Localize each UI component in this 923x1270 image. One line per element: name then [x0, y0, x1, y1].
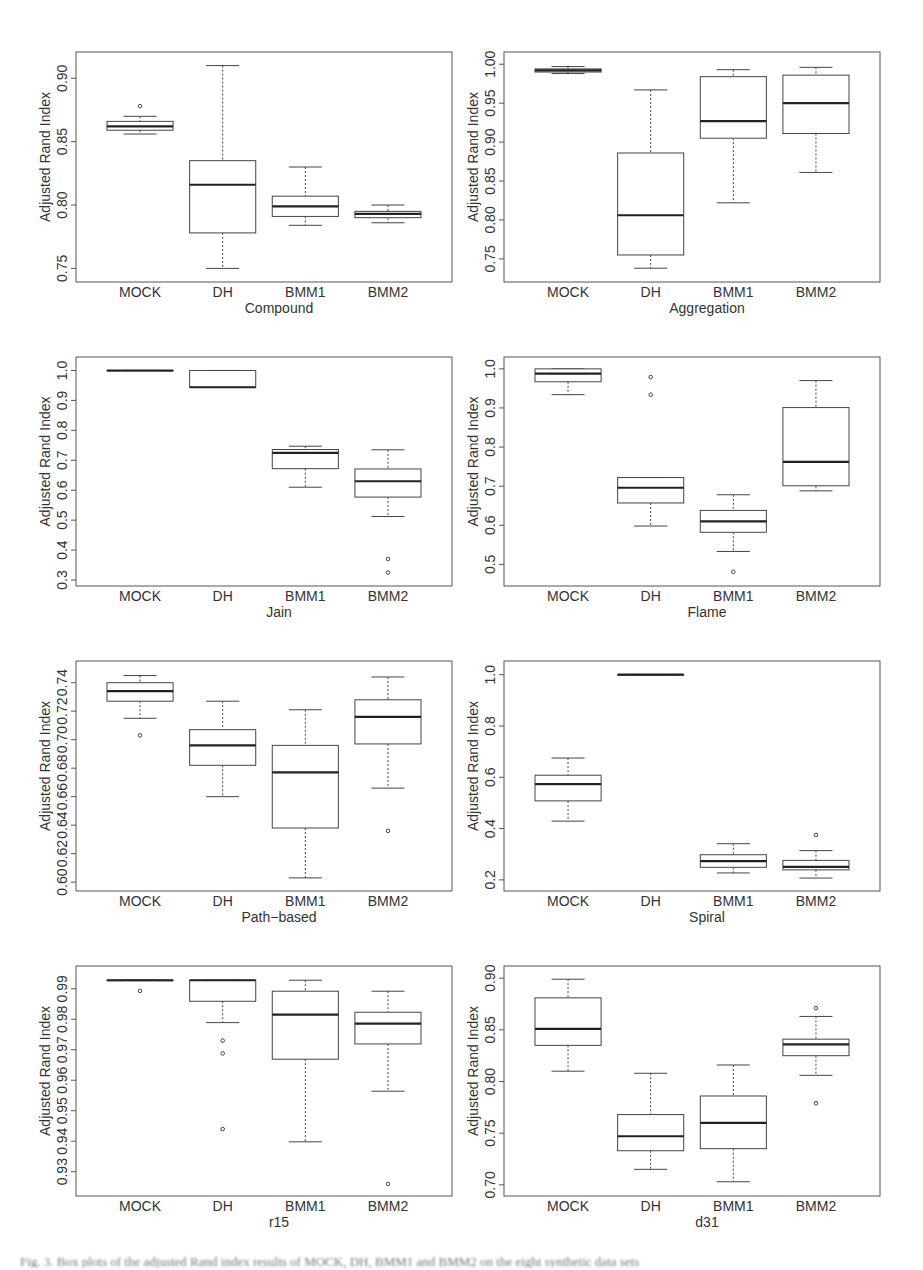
boxplot-panel-aggregation: 0.750.800.850.900.951.00Adjusted Rand In…: [465, 50, 880, 316]
box-bmm1: [700, 844, 766, 873]
boxplot-panel-jain: 0.30.40.50.60.70.80.91.0Adjusted Rand In…: [37, 357, 452, 620]
box-mock: [535, 758, 601, 821]
x-category-label: BMM1: [285, 588, 326, 604]
outlier-point: [649, 393, 653, 397]
iqr-box: [618, 1115, 684, 1151]
x-axis-title: Spiral: [689, 909, 725, 925]
box-bmm1: [700, 70, 766, 203]
boxplot-panel-r15: 0.930.940.950.960.970.980.99Adjusted Ran…: [37, 966, 452, 1230]
y-tick-label: 0.75: [482, 245, 498, 272]
iqr-box: [190, 730, 256, 766]
outlier-point: [386, 1182, 390, 1186]
box-dh: [190, 980, 256, 1131]
x-category-label: BMM2: [796, 284, 837, 300]
y-tick-label: 0.9: [54, 390, 70, 410]
x-category-label: DH: [641, 893, 661, 909]
box-bmm2: [783, 1006, 849, 1105]
boxplot-panel-flame: 0.50.60.70.80.91.0Adjusted Rand IndexMOC…: [465, 357, 880, 620]
y-tick-label: 0.64: [54, 811, 70, 838]
y-tick-label: 1.0: [482, 665, 498, 685]
iqr-box: [535, 775, 601, 801]
y-tick-label: 1.0: [54, 361, 70, 381]
y-tick-label: 0.62: [54, 840, 70, 867]
y-axis-title: Adjusted Rand Index: [37, 701, 53, 831]
y-axis-title: Adjusted Rand Index: [37, 92, 53, 222]
y-tick-label: 0.70: [482, 1171, 498, 1198]
y-tick-label: 0.99: [54, 975, 70, 1002]
outlier-point: [814, 1006, 818, 1010]
figure-caption: Fig. 3. Box plots of the adjusted Rand i…: [20, 1254, 910, 1268]
x-category-label: BMM1: [713, 893, 754, 909]
box-dh: [618, 675, 684, 676]
iqr-box: [783, 408, 849, 486]
x-category-label: DH: [213, 588, 233, 604]
box-bmm2: [355, 205, 421, 223]
x-category-label: DH: [213, 284, 233, 300]
outlier-point: [138, 989, 142, 993]
x-category-label: BMM2: [368, 1198, 409, 1214]
y-tick-label: 0.7: [482, 476, 498, 496]
y-tick-label: 0.80: [54, 191, 70, 218]
iqr-box: [783, 1039, 849, 1056]
box-bmm2: [355, 991, 421, 1185]
y-tick-label: 0.70: [54, 726, 70, 753]
boxplot-panel-d31: 0.700.750.800.850.90Adjusted Rand IndexM…: [465, 964, 880, 1230]
y-tick-label: 0.4: [54, 540, 70, 560]
y-tick-label: 0.9: [482, 398, 498, 418]
x-category-label: BMM2: [796, 893, 837, 909]
x-axis-title: d31: [695, 1214, 719, 1230]
outlier-point: [386, 571, 390, 575]
iqr-box: [272, 745, 338, 828]
outlier-point: [814, 833, 818, 837]
iqr-box: [355, 1012, 421, 1044]
x-category-label: BMM1: [713, 1198, 754, 1214]
y-axis-title: Adjusted Rand Index: [465, 1006, 481, 1136]
box-bmm1: [272, 167, 338, 225]
box-dh: [190, 370, 256, 387]
box-mock: [107, 104, 173, 134]
y-tick-label: 0.90: [482, 128, 498, 155]
y-tick-label: 0.4: [482, 819, 498, 839]
box-mock: [107, 980, 173, 992]
y-tick-label: 0.96: [54, 1066, 70, 1093]
y-tick-label: 0.80: [482, 206, 498, 233]
box-bmm1: [272, 446, 338, 487]
box-bmm2: [355, 450, 421, 575]
y-tick-label: 0.6: [482, 515, 498, 535]
outlier-point: [732, 570, 736, 574]
x-category-label: BMM2: [368, 284, 409, 300]
iqr-box: [355, 700, 421, 744]
box-dh: [190, 66, 256, 269]
plot-frame: [76, 52, 452, 282]
box-bmm2: [783, 833, 849, 878]
y-tick-label: 1.00: [482, 50, 498, 77]
x-category-label: BMM1: [285, 1198, 326, 1214]
outlier-point: [221, 1039, 225, 1043]
x-category-label: DH: [641, 588, 661, 604]
iqr-box: [783, 860, 849, 869]
y-axis-title: Adjusted Rand Index: [465, 92, 481, 222]
y-tick-label: 0.75: [54, 255, 70, 282]
x-category-label: DH: [641, 284, 661, 300]
y-tick-label: 0.2: [482, 870, 498, 890]
y-tick-label: 0.7: [54, 450, 70, 470]
x-axis-title: Compound: [245, 300, 314, 316]
y-tick-label: 0.68: [54, 754, 70, 781]
box-bmm1: [700, 495, 766, 574]
box-mock: [535, 67, 601, 74]
y-tick-label: 0.90: [482, 964, 498, 991]
iqr-box: [783, 75, 849, 133]
outlier-point: [386, 557, 390, 561]
x-category-label: BMM1: [713, 588, 754, 604]
y-tick-label: 0.95: [482, 89, 498, 116]
box-dh: [618, 90, 684, 268]
y-tick-label: 0.6: [482, 767, 498, 787]
x-category-label: DH: [213, 893, 233, 909]
y-tick-label: 0.60: [54, 868, 70, 895]
iqr-box: [700, 77, 766, 139]
box-mock: [535, 979, 601, 1071]
box-mock: [535, 369, 601, 395]
box-bmm1: [272, 710, 338, 878]
box-bmm2: [783, 381, 849, 491]
